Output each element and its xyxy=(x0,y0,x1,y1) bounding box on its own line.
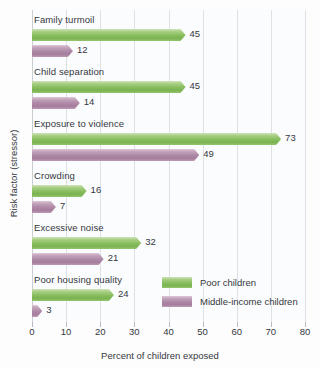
x-axis-title: Percent of children exposed xyxy=(0,350,320,361)
bar-item: 21 xyxy=(32,253,305,265)
bar-middle-income xyxy=(32,305,42,317)
bar-item: 73 xyxy=(32,133,305,145)
bar-value-label: 3 xyxy=(46,304,51,315)
bar-poor xyxy=(32,289,114,301)
category-label: Exposure to violence xyxy=(34,118,124,129)
bar-middle-income xyxy=(32,45,73,57)
bar-poor xyxy=(32,185,87,197)
tick-label-20: 20 xyxy=(95,326,106,337)
bar-value-label: 12 xyxy=(77,44,88,55)
bar-value-label: 49 xyxy=(203,148,214,159)
tick-label-10: 10 xyxy=(61,326,72,337)
x-axis-ticks: 01020304050607080 xyxy=(32,322,305,336)
bar-value-label: 14 xyxy=(84,96,95,107)
bar-group: Crowding167 xyxy=(32,170,305,222)
category-label: Crowding xyxy=(34,170,75,181)
legend-label: Middle-income children xyxy=(200,296,298,307)
bar-value-label: 32 xyxy=(145,236,156,247)
bar-value-label: 45 xyxy=(190,80,201,91)
tick-label-80: 80 xyxy=(300,326,311,337)
bar-group: Child separation4514 xyxy=(32,66,305,118)
bar-poor xyxy=(32,237,141,249)
tick-label-50: 50 xyxy=(197,326,208,337)
bar-item: 12 xyxy=(32,45,305,57)
tick-label-70: 70 xyxy=(266,326,277,337)
tick-label-60: 60 xyxy=(231,326,242,337)
bar-middle-income xyxy=(32,201,56,213)
category-label: Child separation xyxy=(34,66,104,77)
gridline-80 xyxy=(305,10,306,322)
tick-label-40: 40 xyxy=(163,326,174,337)
bar-group: Exposure to violence7349 xyxy=(32,118,305,170)
category-label: Family turmoil xyxy=(34,14,95,25)
bar-poor xyxy=(32,29,186,41)
bar-value-label: 21 xyxy=(108,252,119,263)
legend-label: Poor children xyxy=(200,277,256,288)
bar-group: Family turmoil4512 xyxy=(32,14,305,66)
tick-label-30: 30 xyxy=(129,326,140,337)
legend: Poor childrenMiddle-income children xyxy=(162,274,298,312)
bar-item: 45 xyxy=(32,81,305,93)
bar-middle-income xyxy=(32,149,199,161)
bar-item: 16 xyxy=(32,185,305,197)
bar-item: 49 xyxy=(32,149,305,161)
category-label: Poor housing quality xyxy=(34,274,122,285)
legend-swatch xyxy=(162,296,192,307)
legend-swatch xyxy=(162,277,192,288)
bar-value-label: 16 xyxy=(91,184,102,195)
bar-value-label: 45 xyxy=(190,28,201,39)
legend-item: Middle-income children xyxy=(162,293,298,309)
bar-chart: Family turmoil4512Child separation4514Ex… xyxy=(0,0,320,368)
bar-value-label: 73 xyxy=(285,132,296,143)
y-axis-title: Risk factor (stressor) xyxy=(8,99,19,249)
bar-group: Excessive noise3221 xyxy=(32,222,305,274)
bar-item: 32 xyxy=(32,237,305,249)
tick-label-0: 0 xyxy=(29,326,34,337)
bar-middle-income xyxy=(32,253,104,265)
bar-item: 45 xyxy=(32,29,305,41)
bar-middle-income xyxy=(32,97,80,109)
bar-item: 7 xyxy=(32,201,305,213)
category-label: Excessive noise xyxy=(34,222,104,233)
legend-item: Poor children xyxy=(162,274,298,290)
bar-value-label: 7 xyxy=(60,200,65,211)
bar-value-label: 24 xyxy=(118,288,129,299)
bar-poor xyxy=(32,81,186,93)
bar-poor xyxy=(32,133,281,145)
bar-item: 14 xyxy=(32,97,305,109)
